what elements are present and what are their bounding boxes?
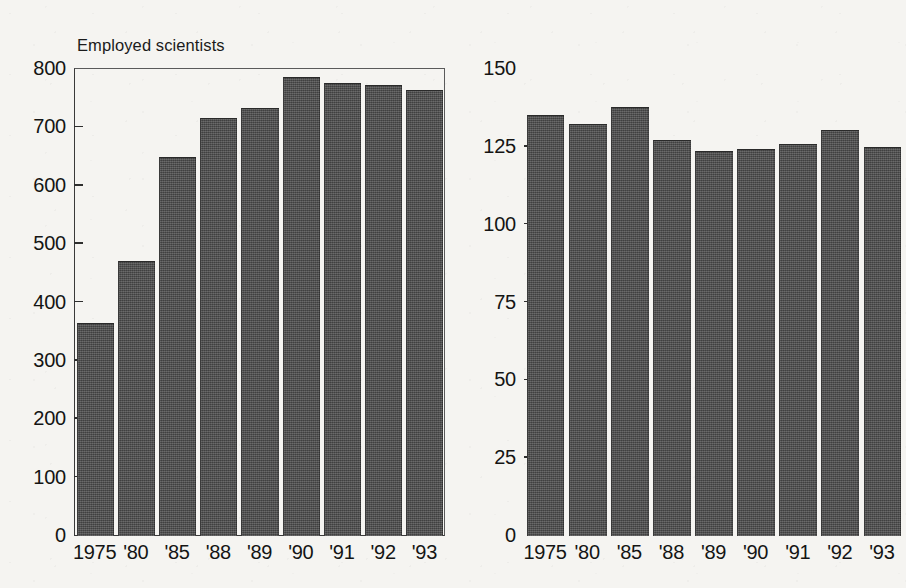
bar (365, 85, 402, 536)
bar (527, 115, 565, 536)
y-axis-tick-mark (74, 126, 83, 128)
y-axis-tick-label: 125 (454, 134, 516, 157)
y-axis-tick-label: 75 (454, 290, 516, 313)
y-axis-tick-label: 100 (4, 465, 66, 488)
x-axis-tick-label: 1975 (73, 541, 116, 564)
y-axis-tick-label: 150 (454, 57, 516, 80)
y-axis-tick-label: 0 (454, 524, 516, 547)
y-axis-tick-label: 100 (454, 212, 516, 235)
y-axis-tick-label: 400 (4, 290, 66, 313)
x-axis-tick-label: '89 (247, 541, 272, 564)
x-axis-tick-label: '80 (123, 541, 148, 564)
x-axis-tick-label: '89 (701, 541, 726, 564)
y-axis-tick-mark (74, 242, 83, 244)
x-axis-tick-label: '93 (869, 541, 894, 564)
y-axis-tick-mark (74, 184, 83, 186)
y-axis-tick-label: 800 (4, 57, 66, 80)
x-axis-tick-label: '80 (575, 541, 600, 564)
chart-panel-employed-scientists: Employed scientists 01002003004005006007… (0, 0, 453, 588)
chart-panel-cost-per-scientist: Cost per scientist or engineer in thousa… (453, 0, 906, 588)
y-axis-tick-label: 300 (4, 348, 66, 371)
bar (406, 90, 443, 536)
y-axis-tick-label: 600 (4, 173, 66, 196)
bar (779, 144, 817, 536)
bar (200, 118, 237, 536)
bar (324, 83, 361, 536)
x-axis-tick-label: '90 (743, 541, 768, 564)
x-axis-tick-label: '88 (206, 541, 231, 564)
x-axis-tick-label: '91 (785, 541, 810, 564)
bar (653, 140, 691, 536)
bar (283, 77, 320, 536)
x-axis-tick-label: '85 (164, 541, 189, 564)
y-axis-tick-label: 0 (4, 524, 66, 547)
bar (611, 107, 649, 536)
x-axis-tick-label: '88 (659, 541, 684, 564)
x-axis-tick-label: '92 (827, 541, 852, 564)
x-axis-tick-label: '91 (329, 541, 354, 564)
bar (569, 124, 607, 536)
bar (241, 108, 278, 536)
y-axis-tick-label: 700 (4, 115, 66, 138)
y-axis-tick-label: 200 (4, 407, 66, 430)
x-axis-tick-label: '90 (288, 541, 313, 564)
bar (118, 261, 155, 536)
bar (77, 323, 114, 536)
y-axis-tick-mark (74, 301, 83, 303)
chart-title-left: Employed scientists (77, 36, 225, 55)
x-axis-tick-label: '93 (412, 541, 437, 564)
y-axis-tick-label: 50 (454, 368, 516, 391)
x-axis-tick-label: 1975 (523, 541, 566, 564)
bar (737, 149, 775, 536)
bar (159, 157, 196, 536)
figure-root: Employed scientists 01002003004005006007… (0, 0, 906, 588)
bar (864, 147, 902, 536)
bar (821, 130, 859, 536)
x-axis-tick-label: '85 (617, 541, 642, 564)
y-axis-tick-label: 500 (4, 232, 66, 255)
y-axis-tick-label: 25 (454, 446, 516, 469)
bar (695, 151, 733, 536)
x-axis-tick-label: '92 (371, 541, 396, 564)
